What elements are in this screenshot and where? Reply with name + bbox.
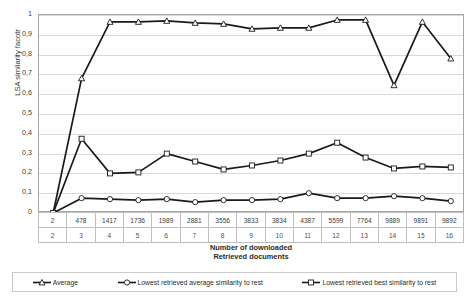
x-axis-category-table: 2478141717361989288135563833383443875599… bbox=[38, 212, 464, 243]
data-point-marker bbox=[107, 197, 112, 202]
y-axis-tick: 0,6 bbox=[22, 90, 32, 97]
x-axis-cell: 7 bbox=[180, 228, 208, 243]
data-point-marker bbox=[335, 196, 340, 201]
data-point-marker bbox=[136, 170, 141, 175]
x-axis-cell: 1736 bbox=[123, 213, 151, 228]
x-axis-cell: 5599 bbox=[322, 213, 350, 228]
series-lines bbox=[39, 15, 465, 213]
x-axis-cell: 9 bbox=[237, 228, 265, 243]
x-axis-cell: 16 bbox=[435, 228, 463, 243]
legend-item-3[interactable]: Lowest retrieved best similarity to rest bbox=[302, 278, 436, 287]
x-axis-cell: 6 bbox=[152, 228, 180, 243]
x-axis-cell: 4 bbox=[95, 228, 123, 243]
data-point-marker bbox=[136, 198, 141, 203]
data-point-marker bbox=[363, 155, 368, 160]
x-axis-cell: 5 bbox=[123, 228, 151, 243]
legend-label: Lowest retrieved average similarity to r… bbox=[138, 279, 263, 286]
x-axis-cell: 7764 bbox=[350, 213, 378, 228]
legend-marker-square-icon bbox=[302, 278, 320, 287]
data-point-marker bbox=[306, 151, 311, 156]
legend-item-1[interactable]: Average bbox=[33, 278, 78, 287]
series-line bbox=[53, 20, 451, 213]
x-axis-cell: 2 bbox=[39, 228, 67, 243]
y-axis-tick: 0,7 bbox=[22, 70, 32, 77]
chart-legend: AverageLowest retrieved average similari… bbox=[12, 272, 457, 292]
x-axis-cell: 14 bbox=[378, 228, 406, 243]
x-axis-cell: 9889 bbox=[378, 213, 406, 228]
data-point-marker bbox=[306, 191, 311, 196]
x-axis-row-downloaded-documents: 2478141717361989288135563833383443875599… bbox=[39, 213, 464, 228]
x-axis-title: Number of downloaded Retrieved documents bbox=[38, 243, 464, 261]
y-axis-tick: 0,5 bbox=[22, 109, 32, 116]
series-1 bbox=[50, 17, 454, 213]
data-point-marker bbox=[278, 197, 283, 202]
y-axis-tick-labels: 00,10,20,30,40,50,60,70,80,91 bbox=[0, 14, 36, 212]
x-axis-cell: 11 bbox=[293, 228, 321, 243]
legend-label: Lowest retrieved best similarity to rest bbox=[322, 279, 436, 286]
x-axis-cell: 13 bbox=[350, 228, 378, 243]
series-2 bbox=[51, 191, 454, 213]
x-axis-cell: 15 bbox=[407, 228, 435, 243]
y-axis-tick: 0 bbox=[28, 208, 32, 215]
x-axis-cell: 3 bbox=[67, 228, 95, 243]
data-point-marker bbox=[108, 171, 113, 176]
y-axis-tick: 0,1 bbox=[22, 189, 32, 196]
x-axis-cell: 2881 bbox=[180, 213, 208, 228]
y-axis-tick: 0,9 bbox=[22, 30, 32, 37]
x-axis-cell: 9891 bbox=[407, 213, 435, 228]
legend-label: Average bbox=[53, 279, 78, 286]
x-axis-row-retrieved-documents: 2345678910111213141516 bbox=[39, 228, 464, 243]
data-point-marker bbox=[79, 136, 84, 141]
data-point-marker bbox=[335, 140, 340, 145]
x-axis-cell: 478 bbox=[67, 213, 95, 228]
x-axis-cell: 1989 bbox=[152, 213, 180, 228]
data-point-marker bbox=[420, 164, 425, 169]
legend-item-2[interactable]: Lowest retrieved average similarity to r… bbox=[118, 278, 263, 287]
data-point-marker bbox=[448, 165, 453, 170]
y-axis-tick: 0,3 bbox=[22, 149, 32, 156]
data-point-marker bbox=[164, 197, 169, 202]
legend-marker-circle-icon bbox=[118, 278, 136, 287]
x-axis-cell: 3833 bbox=[237, 213, 265, 228]
x-axis-title-line1: Number of downloaded bbox=[38, 243, 464, 252]
y-axis-tick: 0,8 bbox=[22, 50, 32, 57]
data-point-marker bbox=[124, 279, 129, 284]
legend-marker-triangle-icon bbox=[33, 278, 51, 287]
data-point-marker bbox=[221, 167, 226, 172]
data-point-marker bbox=[392, 166, 397, 171]
data-point-marker bbox=[448, 199, 453, 204]
x-axis-cell: 2 bbox=[39, 213, 67, 228]
x-axis-cell: 1417 bbox=[95, 213, 123, 228]
x-axis-cell: 3834 bbox=[265, 213, 293, 228]
data-point-marker bbox=[278, 158, 283, 163]
data-point-marker bbox=[391, 194, 396, 199]
plot-area bbox=[38, 14, 464, 212]
data-point-marker bbox=[250, 163, 255, 168]
y-axis-tick: 1 bbox=[28, 10, 32, 17]
x-axis-cell: 12 bbox=[322, 228, 350, 243]
data-point-marker bbox=[79, 75, 85, 80]
x-axis-cell: 8 bbox=[208, 228, 236, 243]
chart-container: LSA similarity facotr 00,10,20,30,40,50,… bbox=[0, 0, 469, 305]
data-point-marker bbox=[309, 280, 314, 285]
data-point-marker bbox=[193, 200, 198, 205]
data-point-marker bbox=[420, 196, 425, 201]
data-point-marker bbox=[419, 19, 425, 24]
data-point-marker bbox=[363, 196, 368, 201]
data-point-marker bbox=[391, 82, 397, 87]
data-point-marker bbox=[193, 159, 198, 164]
data-point-marker bbox=[249, 198, 254, 203]
x-axis-cell: 4387 bbox=[293, 213, 321, 228]
y-axis-tick: 0,2 bbox=[22, 169, 32, 176]
x-axis-title-line2: Retrieved documents bbox=[38, 252, 464, 261]
x-axis-cell: 3556 bbox=[208, 213, 236, 228]
data-point-marker bbox=[221, 198, 226, 203]
x-axis-cell: 9892 bbox=[435, 213, 463, 228]
y-axis-tick: 0,4 bbox=[22, 129, 32, 136]
data-point-marker bbox=[164, 151, 169, 156]
x-axis-cell: 10 bbox=[265, 228, 293, 243]
data-point-marker bbox=[79, 196, 84, 201]
